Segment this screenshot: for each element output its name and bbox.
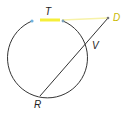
secant-line-DR xyxy=(40,18,108,96)
circle xyxy=(7,21,87,98)
point-tangent-left xyxy=(30,19,33,22)
label-V: V xyxy=(92,40,100,51)
label-T: T xyxy=(45,6,52,17)
label-R: R xyxy=(34,99,41,110)
point-tangent-right xyxy=(62,20,65,23)
point-D-end xyxy=(107,17,110,20)
label-D: D xyxy=(113,12,120,23)
geometry-diagram: T D V R xyxy=(0,0,129,114)
tangent-segment-TD xyxy=(62,18,108,20)
